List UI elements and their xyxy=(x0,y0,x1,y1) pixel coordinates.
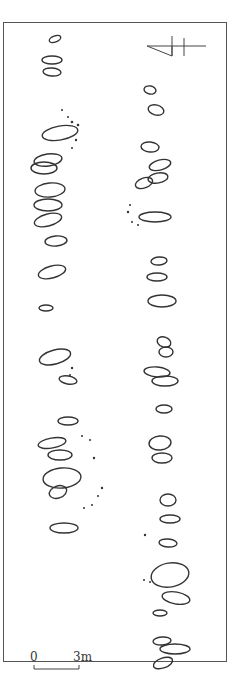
feature-outline xyxy=(148,295,176,307)
feature-outline xyxy=(34,199,62,211)
feature-outline xyxy=(152,453,172,463)
feature-outline xyxy=(152,376,178,386)
feature-outline xyxy=(160,515,180,523)
scale-end-label: 3m xyxy=(73,650,92,664)
feature-outline xyxy=(38,346,73,368)
feature-outline xyxy=(48,34,61,44)
feature-outline xyxy=(58,374,77,385)
feature-outline xyxy=(152,655,174,671)
feature-outline xyxy=(159,538,178,548)
feature-outline xyxy=(58,417,78,425)
feature-outline xyxy=(160,494,176,506)
feature-outline xyxy=(160,644,190,654)
feature-outline xyxy=(161,590,191,607)
feature-outline xyxy=(148,435,171,451)
feature-outline xyxy=(48,450,72,460)
feature-outline xyxy=(34,182,65,199)
feature-outline xyxy=(148,157,172,172)
feature-outline xyxy=(41,123,79,143)
feature-outline xyxy=(151,256,168,265)
feature-outline xyxy=(147,273,167,281)
scale-start-label: 0 xyxy=(30,650,38,664)
feature-outline xyxy=(43,67,62,77)
feature-outline xyxy=(33,152,62,168)
north-arrow-icon xyxy=(147,36,206,56)
feature-outline xyxy=(153,610,167,616)
feature-outline xyxy=(47,483,68,500)
feature-outline xyxy=(37,263,67,282)
feature-outlines xyxy=(31,34,191,671)
feature-outline xyxy=(50,523,78,533)
feature-outline xyxy=(31,162,57,174)
site-plan-drawing xyxy=(0,0,230,698)
scale-bar xyxy=(34,665,79,669)
feature-outline xyxy=(39,305,53,311)
feature-outline xyxy=(139,212,171,222)
feature-outline xyxy=(37,436,66,451)
feature-outline xyxy=(45,235,68,247)
feature-outline xyxy=(33,211,63,230)
feature-outline xyxy=(42,56,62,64)
feature-outline xyxy=(149,560,191,590)
feature-outline xyxy=(143,85,156,95)
feature-outline xyxy=(141,141,160,153)
feature-outline xyxy=(156,405,172,413)
feature-outline xyxy=(147,103,165,117)
scatter-marks xyxy=(61,109,151,583)
feature-outline xyxy=(159,347,173,357)
